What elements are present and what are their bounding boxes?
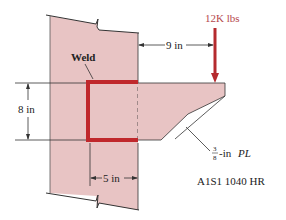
plate-thickness-suffix: -in (219, 147, 232, 159)
weld-bracket-diagram: Weld 8 in 5 in 9 in 12K lbs 3 8 -in P (0, 0, 286, 220)
plate-designation: PL (237, 147, 251, 159)
dimension-8in-label: 8 in (18, 103, 35, 115)
plate-body (138, 83, 225, 140)
dimension-8in: 8 in (18, 83, 35, 140)
load: 12K lbs (205, 12, 240, 83)
plate-leader-line (186, 127, 210, 151)
weld-label: Weld (71, 51, 95, 63)
load-arrowhead-icon (211, 73, 219, 83)
material-label: A1S1 1040 HR (197, 175, 266, 187)
dimension-9in: 9 in (138, 39, 214, 51)
column-body (50, 16, 138, 210)
dimension-5in-label: 5 in (103, 172, 120, 184)
arrowhead-left-icon (138, 43, 144, 47)
plate-thickness-label: 3 8 -in PL (212, 145, 251, 162)
column (46, 15, 139, 210)
fraction-denominator: 8 (213, 154, 217, 162)
fraction-numerator: 3 (213, 145, 217, 153)
arrowhead-up-icon (26, 83, 30, 89)
arrowhead-down-icon (26, 134, 30, 140)
arrowhead-right-icon (208, 43, 214, 47)
load-label: 12K lbs (205, 12, 240, 24)
dimension-9in-label: 9 in (166, 39, 183, 51)
bracket-plate (138, 83, 225, 140)
